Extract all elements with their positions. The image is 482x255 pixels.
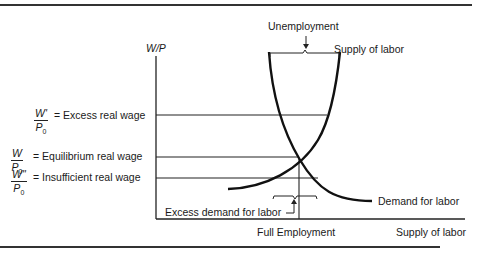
- x-axis-label: Supply of labor: [396, 227, 466, 238]
- demand-curve-label: Demand for labor: [378, 196, 459, 207]
- equilibrium-wage-label: = Equilibrium real wage: [33, 151, 142, 162]
- demand-curve: [269, 52, 372, 201]
- unemployment-label: Unemployment: [268, 21, 339, 32]
- excess-demand-label: Excess demand for labor: [165, 207, 281, 218]
- insufficient-wage-fraction: W" P0: [11, 169, 27, 196]
- unemployment-bracket: [270, 50, 339, 57]
- supply-curve-label: Supply of labor: [334, 44, 404, 55]
- supply-curve: [228, 52, 340, 189]
- excess-wage-fraction: W' P0: [34, 108, 48, 135]
- excess-wage-label: = Excess real wage: [54, 110, 145, 121]
- insufficient-wage-label: = Insufficient real wage: [33, 172, 141, 183]
- full-employment-label: Full Employment: [257, 227, 335, 238]
- excess-demand-bracket: [273, 196, 317, 199]
- y-axis-label: W/P: [146, 43, 166, 54]
